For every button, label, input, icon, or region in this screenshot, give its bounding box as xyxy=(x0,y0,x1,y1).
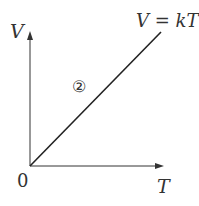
v-axis-arrow-icon xyxy=(27,31,33,40)
line-equation-label: V = kT xyxy=(136,10,199,31)
vt-diagram: V T 0 V = kT ② xyxy=(0,0,199,206)
t-axis-label: T xyxy=(157,175,171,197)
diagram-svg: V T 0 V = kT ② xyxy=(0,0,199,206)
v-axis-label: V xyxy=(10,20,26,42)
region-marker: ② xyxy=(72,77,86,96)
t-axis-arrow-icon xyxy=(155,163,164,169)
proportional-line xyxy=(30,32,161,166)
origin-label: 0 xyxy=(17,170,28,191)
